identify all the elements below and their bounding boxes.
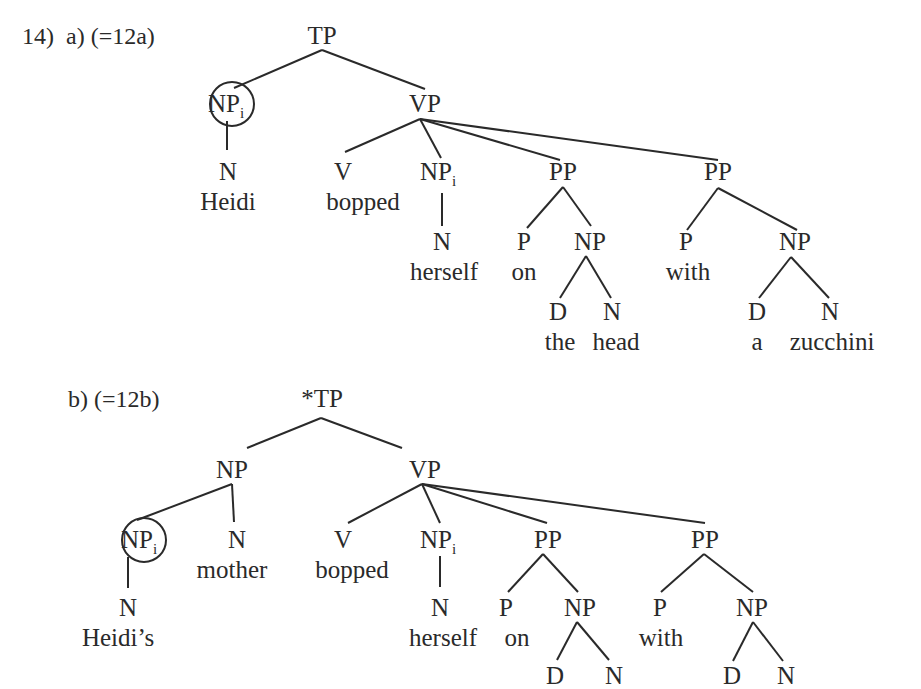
edge xyxy=(661,554,704,592)
edge xyxy=(791,257,829,298)
tree-a-pp1: PP xyxy=(549,158,577,185)
tree-a-object-np: NPi xyxy=(420,158,456,189)
edge xyxy=(586,256,611,298)
edge xyxy=(527,187,563,228)
edge xyxy=(577,622,609,660)
edge xyxy=(718,188,797,230)
tree-a-word-zucchini: zucchini xyxy=(790,328,875,355)
tree-a-word-herself: herself xyxy=(410,258,479,285)
tree-b-pp2-p: P xyxy=(653,594,667,621)
tree-b-word-on: on xyxy=(505,624,531,651)
tree-a-root-tp: TP xyxy=(307,22,336,49)
tree-a-v: V xyxy=(334,158,352,185)
edge xyxy=(322,50,425,89)
tree-a-word-head: head xyxy=(592,328,640,355)
tree-b-pp1: PP xyxy=(534,526,562,553)
tree-b-head-n: N xyxy=(228,526,246,553)
edge xyxy=(247,418,321,448)
edge xyxy=(321,418,402,448)
edge xyxy=(348,484,422,523)
tree-a-pp2-n: N xyxy=(821,298,839,325)
edge xyxy=(733,622,753,661)
edge xyxy=(560,256,586,298)
edge xyxy=(137,484,232,520)
edge xyxy=(420,119,718,160)
tree-b-pp2: PP xyxy=(691,526,719,553)
tree-a-word-a: a xyxy=(751,328,762,355)
tree-b-pp2-n: N xyxy=(777,662,795,689)
edge xyxy=(704,554,753,592)
tree-a-pp1-np: NP xyxy=(574,228,606,255)
edge xyxy=(234,50,322,88)
tree-b-root-tp: *TP xyxy=(301,385,343,412)
edge xyxy=(422,484,705,523)
tree-a-pp1-d: D xyxy=(549,298,567,325)
tree-a-object-n: N xyxy=(433,228,451,255)
tree-a-pp2-d: D xyxy=(748,298,766,325)
edge xyxy=(543,554,578,592)
tree-b-vp: VP xyxy=(409,456,441,483)
tree-b-object-n: N xyxy=(431,594,449,621)
tree-b-pp1-np: NP xyxy=(564,594,596,621)
tree-b-word-heidis: Heidi’s xyxy=(82,624,154,651)
tree-a-word-with: with xyxy=(666,258,711,285)
edge xyxy=(420,119,560,160)
tree-a-subject-np: NPi xyxy=(208,90,244,121)
tree-b-pp1-d: D xyxy=(546,662,564,689)
tree-a-pp1-n: N xyxy=(603,298,621,325)
tree-b-pp1-p: P xyxy=(499,594,513,621)
tree-a-pp2-np: NP xyxy=(779,228,811,255)
edge xyxy=(753,622,783,661)
tree-b-label: b) (=12b) xyxy=(68,386,160,412)
tree-b-word-herself: herself xyxy=(409,624,478,651)
tree-b: b) (=12b) *TP NP NPi N Heidi’s N mother … xyxy=(68,385,795,689)
edge xyxy=(557,622,577,660)
tree-a-pp1-p: P xyxy=(517,228,531,255)
tree-b-pp1-n: N xyxy=(605,662,623,689)
tree-b-possessor-np: NPi xyxy=(121,526,157,557)
edge xyxy=(232,484,234,522)
tree-a-word-on: on xyxy=(512,258,538,285)
edge xyxy=(759,257,791,298)
tree-a-word-bopped: bopped xyxy=(326,188,400,215)
tree-b-word-mother: mother xyxy=(197,556,268,583)
example-number: 14) xyxy=(22,23,54,49)
edge xyxy=(687,188,718,230)
tree-a-subject-n: N xyxy=(219,158,237,185)
edge xyxy=(563,187,591,226)
tree-b-word-bopped: bopped xyxy=(315,556,389,583)
tree-a-label: a) (=12a) xyxy=(66,23,155,49)
tree-a-word-heidi: Heidi xyxy=(200,188,256,215)
tree-b-pp2-np: NP xyxy=(736,594,768,621)
edge xyxy=(422,484,547,523)
tree-b-v: V xyxy=(334,526,352,553)
tree-b-possessor-n: N xyxy=(119,594,137,621)
tree-b-subject-np: NP xyxy=(216,456,248,483)
edge xyxy=(422,484,440,523)
syntax-tree-figure: 14) a) (=12a) TP NPi N Heidi VP V bopped… xyxy=(0,0,921,689)
tree-b-pp2-d: D xyxy=(723,662,741,689)
tree-a-pp2-p: P xyxy=(679,228,693,255)
edge xyxy=(345,119,420,152)
tree-b-object-np: NPi xyxy=(420,526,456,557)
tree-a-word-the: the xyxy=(545,328,576,355)
tree-b-word-with: with xyxy=(639,624,684,651)
tree-a-pp2: PP xyxy=(704,158,732,185)
tree-a: 14) a) (=12a) TP NPi N Heidi VP V bopped… xyxy=(22,22,874,355)
tree-a-vp: VP xyxy=(409,90,441,117)
edge xyxy=(508,554,543,592)
